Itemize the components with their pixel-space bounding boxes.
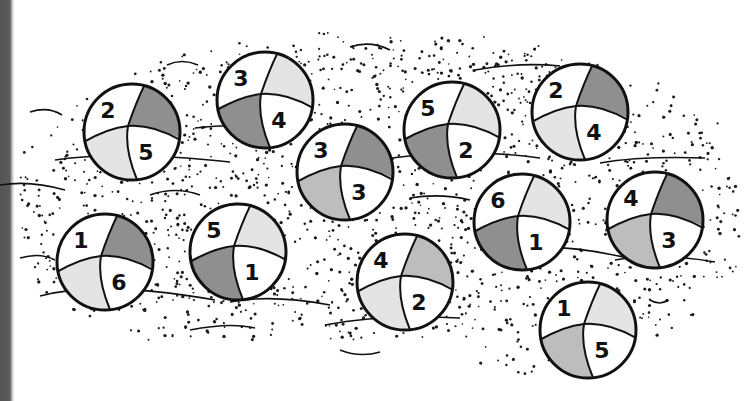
- sand-ridge: [650, 300, 668, 303]
- sand-dot: [477, 295, 480, 298]
- sand-dot: [402, 332, 404, 334]
- sand-dot: [517, 338, 520, 341]
- sand-ridge: [30, 110, 62, 115]
- sand-dot: [504, 60, 507, 63]
- sand-dot: [162, 209, 164, 211]
- sand-dot: [592, 276, 595, 279]
- sand-dot: [335, 324, 338, 327]
- sand-dot: [337, 224, 340, 227]
- sand-dot: [268, 177, 270, 179]
- sand-dot: [179, 80, 181, 82]
- sand-dot: [220, 180, 222, 182]
- sand-dot: [52, 267, 55, 270]
- sand-dot: [421, 71, 424, 74]
- sand-dot: [328, 78, 330, 80]
- sand-dot: [306, 302, 308, 304]
- sand-dot: [270, 334, 272, 336]
- sand-dot: [276, 294, 278, 296]
- ball-number-bottom-right: 1: [244, 260, 259, 285]
- sand-dot: [511, 111, 514, 114]
- sand-dot: [160, 61, 162, 63]
- sand-dot: [184, 193, 186, 195]
- sand-dot: [364, 314, 367, 317]
- sand-dot: [635, 141, 638, 144]
- sand-dot: [183, 222, 186, 225]
- sand-dot: [294, 240, 296, 242]
- sand-dot: [710, 219, 712, 221]
- sand-dot: [392, 206, 395, 209]
- sand-dot: [252, 335, 255, 338]
- sand-dot: [703, 251, 705, 253]
- sand-dot: [282, 304, 284, 306]
- sand-dot: [83, 205, 85, 207]
- sand-dot: [306, 229, 308, 231]
- sand-dot: [511, 59, 513, 61]
- sand-dot: [256, 181, 258, 183]
- sand-dot: [253, 303, 255, 305]
- sand-dot: [200, 203, 203, 206]
- sand-dot: [459, 261, 462, 264]
- sand-dot: [317, 59, 319, 61]
- sand-dot: [433, 68, 435, 70]
- sand-dot: [474, 247, 476, 249]
- sand-dot: [637, 114, 640, 117]
- sand-dot: [84, 192, 86, 194]
- sand-dot: [264, 194, 266, 196]
- sand-dot: [437, 78, 439, 80]
- sand-dot: [191, 185, 193, 187]
- sand-dot: [470, 187, 472, 189]
- sand-dot: [490, 94, 493, 97]
- sand-dot: [237, 177, 240, 180]
- sand-dot: [734, 185, 737, 188]
- sand-dot: [72, 143, 74, 145]
- sand-dot: [162, 327, 164, 329]
- sand-dot: [486, 92, 489, 95]
- sand-dot: [130, 214, 132, 216]
- sand-dot: [355, 327, 358, 330]
- sand-dot: [164, 192, 167, 195]
- sand-dot: [578, 219, 580, 221]
- sand-dot: [718, 206, 720, 208]
- sand-dot: [672, 96, 675, 99]
- sand-dot: [665, 160, 668, 163]
- sand-dot: [232, 170, 235, 173]
- sand-dot: [41, 233, 43, 235]
- sand-dot: [82, 119, 84, 121]
- sand-dot: [485, 62, 488, 65]
- sand-dot: [665, 169, 667, 171]
- sand-dot: [715, 168, 717, 170]
- sand-dot: [629, 167, 632, 170]
- sand-dot: [238, 301, 240, 303]
- sand-dot: [411, 81, 413, 83]
- sand-dot: [554, 66, 556, 68]
- sand-dot: [604, 207, 607, 210]
- sand-dot: [575, 181, 577, 183]
- sand-dot: [467, 227, 470, 230]
- sand-dot: [524, 372, 527, 375]
- sand-dot: [494, 273, 496, 275]
- sand-dot: [180, 152, 182, 154]
- sand-dot: [354, 263, 357, 266]
- sand-dot: [503, 50, 506, 53]
- sand-dot: [183, 133, 186, 136]
- sand-dot: [197, 120, 199, 122]
- sand-ridge: [475, 65, 560, 70]
- sand-dot: [603, 219, 605, 221]
- sand-dot: [437, 220, 440, 223]
- sand-dot: [300, 298, 302, 300]
- sand-dot: [428, 55, 430, 57]
- sand-dot: [412, 217, 415, 220]
- sand-dot: [383, 95, 385, 97]
- beach-ball: 15: [536, 278, 640, 382]
- sand-dot: [495, 286, 497, 288]
- sand-dot: [373, 332, 375, 334]
- sand-dot: [21, 227, 23, 229]
- sand-dot: [441, 227, 443, 229]
- sand-dot: [332, 229, 335, 232]
- sand-dot: [732, 270, 734, 272]
- sand-dot: [348, 226, 350, 228]
- sand-dot: [650, 142, 653, 145]
- sand-dot: [582, 207, 585, 210]
- sand-dot: [418, 57, 421, 60]
- sand-dot: [468, 56, 470, 58]
